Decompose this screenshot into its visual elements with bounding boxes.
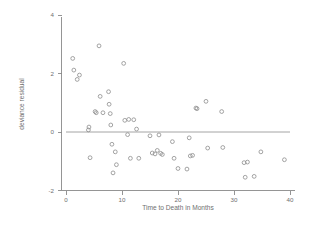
data-point [135, 127, 139, 131]
data-point [115, 163, 119, 167]
x-tick-label-40: 40 [287, 196, 294, 203]
data-point [252, 174, 256, 178]
data-point [126, 133, 130, 137]
data-point [97, 44, 101, 48]
data-point [185, 167, 189, 171]
data-point [191, 153, 195, 157]
x-axis-tick-labels: 010203040 [64, 196, 294, 203]
plot-canvas: -2024 010203040 Time to Death in Months … [0, 0, 325, 226]
data-point [72, 68, 76, 72]
data-point [132, 118, 136, 122]
x-tick-label-30: 30 [231, 196, 238, 203]
data-point [243, 175, 247, 179]
data-point [71, 57, 75, 61]
y-tick-label-2: 2 [51, 70, 55, 77]
y-axis-title: deviance residual [18, 78, 25, 130]
data-point [107, 90, 111, 94]
data-point [111, 171, 115, 175]
data-point [206, 146, 210, 150]
x-tick-label-0: 0 [64, 196, 68, 203]
data-point [88, 156, 92, 160]
data-point [110, 142, 114, 146]
y-tick-label--2: -2 [48, 187, 54, 194]
x-tick-label-20: 20 [175, 196, 182, 203]
data-point [137, 156, 141, 160]
data-point [127, 118, 131, 122]
data-point [204, 99, 208, 103]
data-point [148, 134, 152, 138]
y-tick-label-0: 0 [51, 128, 55, 135]
data-point [107, 102, 111, 106]
x-axis-group: 010203040 [62, 191, 296, 204]
data-point [155, 149, 159, 153]
y-axis-ticks [58, 15, 62, 190]
data-point [171, 140, 175, 144]
data-point [109, 123, 113, 127]
data-point [122, 61, 126, 65]
scatter-plot-figure: -2024 010203040 Time to Death in Months … [0, 0, 325, 226]
data-point [113, 150, 117, 154]
data-point [78, 73, 82, 77]
data-point [123, 118, 127, 122]
y-axis-tick-labels: -2024 [48, 11, 54, 193]
data-point [101, 111, 105, 115]
data-point [98, 94, 102, 98]
data-point [108, 112, 112, 116]
data-point [220, 110, 224, 114]
data-point [75, 78, 79, 82]
data-point [157, 133, 161, 137]
x-tick-label-10: 10 [119, 196, 126, 203]
data-point [176, 167, 180, 171]
y-tick-label-4: 4 [51, 11, 55, 18]
data-point [187, 136, 191, 140]
data-points-group [71, 44, 286, 179]
x-axis-ticks [66, 191, 290, 195]
data-point [221, 146, 225, 150]
data-point [259, 150, 263, 154]
data-point [283, 158, 287, 162]
data-point [129, 156, 133, 160]
data-point [172, 156, 176, 160]
y-axis-group: -2024 [48, 11, 61, 193]
x-axis-title: Time to Death in Months [142, 204, 214, 211]
